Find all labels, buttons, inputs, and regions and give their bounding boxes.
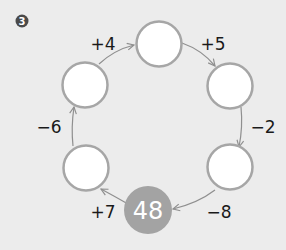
number-cycle-diagram: 3 48 +4 +5 −2 −8 +7 −6 — [0, 0, 286, 250]
op-label-plus-4: +4 — [90, 34, 115, 54]
op-label-plus-7: +7 — [90, 202, 115, 222]
op-label-minus-8: −8 — [206, 202, 231, 222]
blank-circle-lower-left[interactable] — [64, 146, 109, 191]
arrow-lower-left-to-upper-left — [72, 107, 74, 146]
op-label-minus-6: −6 — [36, 117, 61, 137]
blank-circle-lower-right[interactable] — [208, 145, 253, 190]
op-label-plus-5: +5 — [200, 34, 225, 54]
start-circle: 48 — [124, 186, 172, 234]
blank-circle-upper-left[interactable] — [63, 63, 108, 108]
arrow-upper-right-to-lower-right — [239, 107, 242, 147]
problem-number-marker: 3 — [16, 15, 29, 28]
op-label-minus-2: −2 — [250, 117, 275, 137]
blank-circle-upper-right[interactable] — [208, 64, 253, 109]
problem-number: 3 — [19, 16, 26, 27]
blank-circle-top[interactable] — [137, 22, 182, 67]
start-value: 48 — [133, 197, 164, 225]
